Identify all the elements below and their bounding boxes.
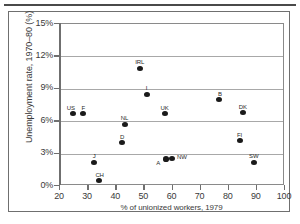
data-point [122, 122, 128, 127]
data-point [91, 160, 97, 165]
data-point-label: DK [239, 104, 247, 110]
data-point [144, 92, 150, 97]
data-point [169, 156, 175, 161]
x-axis-tick [87, 185, 88, 190]
figure-container: 0%3%6%9%12%15% USFJCHDNLIRLIUKANWBFIDKSW… [0, 0, 300, 224]
y-axis-title: Unemployment rate, 1970–80 (%) [24, 0, 34, 157]
x-axis-tick-label: 100 [271, 191, 297, 201]
y-axis-tick [54, 23, 59, 24]
x-axis-tick-label: 40 [102, 191, 128, 201]
x-axis-tick-label: 20 [46, 191, 72, 201]
data-point [216, 97, 222, 102]
x-axis-tick-label: 90 [243, 191, 269, 201]
x-axis-tick [172, 185, 173, 190]
data-point-label: CH [95, 172, 103, 178]
y-axis-spine [59, 23, 61, 185]
x-axis-tick-label: 50 [130, 191, 156, 201]
data-point-label: I [146, 85, 148, 91]
chart-frame: 0%3%6%9%12%15% USFJCHDNLIRLIUKANWBFIDKSW… [8, 11, 290, 212]
x-axis-tick [228, 185, 229, 190]
data-point [70, 111, 76, 116]
data-point-label: NW [177, 154, 187, 160]
data-point-label: A [156, 160, 160, 166]
data-point-label: UK [160, 105, 168, 111]
data-point [96, 178, 102, 183]
x-axis-tick-label: 60 [159, 191, 185, 201]
x-axis-tick [59, 185, 60, 190]
gridline-horizontal [60, 89, 283, 90]
x-axis-title: % of unionized workers, 1979 [59, 203, 284, 212]
y-axis-tick [54, 120, 59, 121]
x-axis-tick-label: 30 [74, 191, 100, 201]
x-axis-tick [115, 185, 116, 190]
data-point-label: D [120, 134, 124, 140]
data-point [162, 111, 168, 116]
data-point-label: SW [249, 153, 258, 159]
x-axis-tick-label: 80 [215, 191, 241, 201]
x-axis-tick [143, 185, 144, 190]
data-point-label: J [93, 153, 96, 159]
data-point-label: FI [237, 132, 242, 138]
y-axis-tick [54, 153, 59, 154]
y-axis-tick-label: 0% [11, 181, 53, 190]
data-point [137, 66, 143, 71]
data-point-label: IRL [135, 59, 144, 65]
y-axis-tick [54, 55, 59, 56]
x-axis-tick [284, 185, 285, 190]
data-point-label: NL [121, 115, 128, 121]
x-axis-tick-label: 70 [187, 191, 213, 201]
data-point [80, 111, 86, 116]
x-axis-tick [256, 185, 257, 190]
gridline-horizontal [60, 56, 283, 57]
y-axis-tick [54, 88, 59, 89]
top-horizontal-rule [4, 4, 296, 6]
data-point [119, 140, 125, 145]
data-point [237, 138, 243, 143]
data-point [251, 160, 257, 165]
data-point [240, 110, 246, 115]
gridline-horizontal [60, 121, 283, 122]
x-axis-tick [200, 185, 201, 190]
data-point-label: B [218, 91, 222, 97]
data-point-label: US [67, 105, 75, 111]
data-point-label: F [82, 105, 86, 111]
plot-area: USFJCHDNLIRLIUKANWBFIDKSW [59, 23, 284, 185]
